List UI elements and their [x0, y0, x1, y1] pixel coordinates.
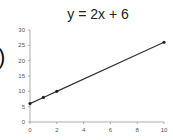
x-tick-label: 2 — [55, 127, 59, 133]
y-tick-label: 20 — [18, 58, 25, 64]
x-tick-label: 4 — [82, 127, 86, 133]
y-tick-label: 10 — [18, 88, 25, 94]
data-point — [162, 41, 165, 44]
x-tick-label: 0 — [28, 127, 32, 133]
data-point — [55, 90, 58, 93]
data-point — [28, 102, 31, 105]
y-tick-label: 30 — [18, 27, 25, 33]
y-tick-label: 5 — [22, 104, 26, 110]
x-tick-label: 6 — [109, 127, 113, 133]
x-tick-label: 8 — [136, 127, 140, 133]
x-tick-label: 10 — [161, 127, 168, 133]
y-tick-label: 15 — [18, 73, 25, 79]
y-tick-label: 25 — [18, 42, 25, 48]
data-point — [42, 96, 45, 99]
data-line — [30, 42, 164, 103]
y-tick-label: 0 — [22, 119, 26, 125]
line-chart: 0510152025300246810 — [0, 0, 173, 140]
